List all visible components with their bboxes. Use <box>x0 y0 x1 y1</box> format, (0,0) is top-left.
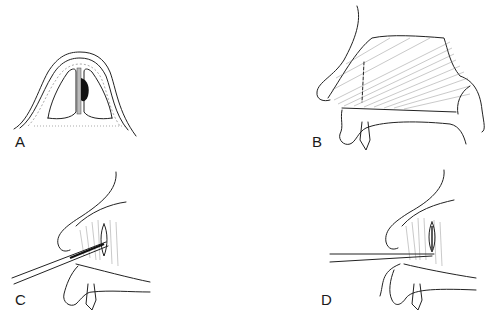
panel-label-d: D <box>321 291 332 308</box>
panel-label-a: A <box>15 133 25 150</box>
panel-b: B <box>300 0 499 160</box>
panel-label-c: C <box>15 291 26 308</box>
panel-c: C <box>0 160 180 320</box>
panel-label-b: B <box>312 133 322 150</box>
instrument-insertion-illustration <box>0 160 180 320</box>
panel-d: D <box>310 160 499 320</box>
lateral-nose-septum-illustration <box>300 0 499 160</box>
flap-elevation-illustration <box>310 160 499 320</box>
panel-a: A <box>0 0 160 160</box>
